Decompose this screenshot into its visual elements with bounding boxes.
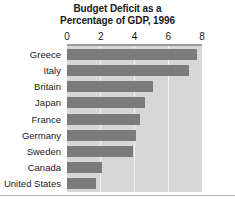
x-tick-label-2: 2: [98, 31, 104, 43]
category-label-france: France: [31, 114, 61, 125]
bar-sweden: [67, 146, 133, 157]
plot-area: [67, 46, 202, 192]
category-label-canada: Canada: [28, 162, 61, 173]
category-label-italy: Italy: [44, 65, 61, 76]
bar-canada: [67, 162, 102, 173]
x-axis-tick-labels: 02468: [0, 31, 235, 44]
bar-greece: [67, 49, 197, 60]
bar-united-states: [67, 178, 96, 189]
category-label-united-states: United States: [4, 178, 61, 189]
bar-germany: [67, 130, 136, 141]
category-label-sweden: Sweden: [27, 146, 61, 157]
x-tick-label-0: 0: [64, 31, 70, 43]
chart-title: Budget Deficit as a Percentage of GDP, 1…: [0, 3, 235, 27]
chart-figure: Budget Deficit as a Percentage of GDP, 1…: [0, 0, 235, 204]
category-label-greece: Greece: [30, 49, 61, 60]
y-axis-category-labels: GreeceItalyBritainJapanFranceGermanySwed…: [0, 46, 64, 192]
x-tick-label-8: 8: [199, 31, 205, 43]
x-tick-label-6: 6: [165, 31, 171, 43]
bar-france: [67, 114, 140, 125]
x-tick-label-4: 4: [132, 31, 138, 43]
category-label-britain: Britain: [34, 81, 61, 92]
bar-italy: [67, 65, 189, 76]
category-label-japan: Japan: [35, 97, 61, 108]
bar-britain: [67, 81, 153, 92]
bottom-band: [0, 196, 235, 204]
category-label-germany: Germany: [22, 130, 61, 141]
gridline-8: [202, 46, 203, 192]
bar-japan: [67, 97, 145, 108]
chart-title-line-1: Budget Deficit as a: [0, 3, 235, 15]
chart-title-line-2: Percentage of GDP, 1996: [0, 15, 235, 27]
